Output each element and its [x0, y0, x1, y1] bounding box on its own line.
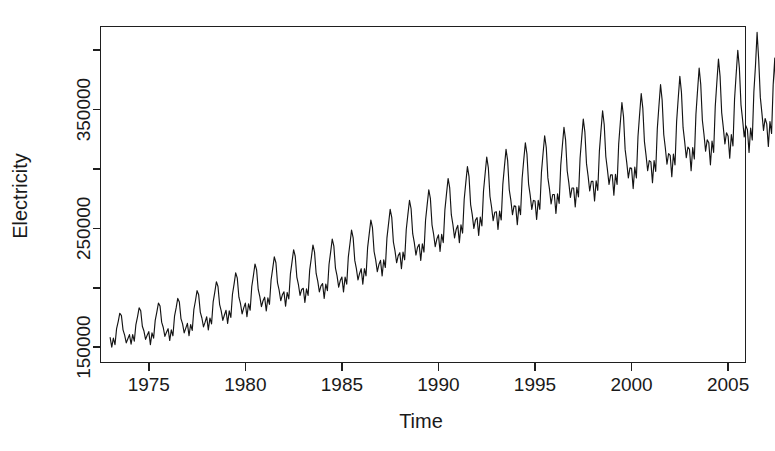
y-tick-label: 250000: [73, 197, 94, 260]
plot-area: 1975198019851990199520002005150000250000…: [0, 0, 775, 451]
plot-background: [0, 0, 775, 451]
x-tick-label: 1980: [224, 374, 266, 395]
x-tick-label: 2005: [707, 374, 749, 395]
chart-figure: 1975198019851990199520002005150000250000…: [0, 0, 775, 451]
x-tick-label: 1985: [321, 374, 363, 395]
x-tick-label: 2000: [610, 374, 652, 395]
y-tick-label: 350000: [73, 78, 94, 141]
x-tick-label: 1995: [514, 374, 556, 395]
x-tick-label: 1990: [417, 374, 459, 395]
x-tick-label: 1975: [128, 374, 170, 395]
x-axis-title: Time: [399, 410, 443, 432]
y-axis-title: Electricity: [9, 153, 31, 239]
y-tick-label: 150000: [73, 315, 94, 378]
